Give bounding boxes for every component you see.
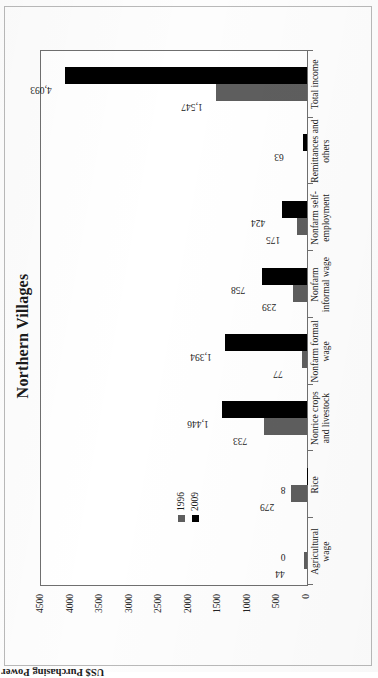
bar-column[interactable]: 279 [291,485,307,502]
x-axis-category-label: Agriculturalwage [310,518,366,585]
plot-area: 44027987331,446771,394239758175424631,54… [41,51,307,585]
bar-value-label: 8 [302,476,307,486]
x-axis-category-label-line: employment [321,186,332,251]
y-axis-tick-label: 2500 [153,594,163,613]
legend-swatch [192,515,199,522]
bar-group: 2798 [41,452,307,519]
x-axis-category-label-line: Remittances and [310,119,321,184]
bar-group: 239758 [41,251,307,318]
legend-label: 2009 [190,492,200,511]
y-axis-tick-label: 4500 [35,594,45,613]
bar-column[interactable]: 424 [282,201,307,218]
bar-group: 771,394 [41,318,307,385]
y-axis-tick-label: 1000 [242,594,252,613]
bar-2009[interactable] [225,334,307,351]
x-axis-category-label-line: and livestock [321,386,332,451]
x-axis-category-label-line: Nonfarm [310,252,321,317]
bar-2009[interactable] [65,67,307,84]
y-axis-tick-label: 4000 [65,594,75,613]
bar-column[interactable]: 1,446 [222,401,307,418]
bar-value-label: 1,446 [209,410,230,420]
x-axis-category-label: Rice [310,452,366,519]
x-axis-category-label: Total income [310,51,366,118]
chart-title: Northern Villages [14,0,32,672]
bar-column[interactable]: 77 [302,351,307,368]
bar-column[interactable]: 239 [293,285,307,302]
x-axis-category-label: Nonfarminformal wage [310,251,366,318]
y-axis-tick-label: 0 [301,594,311,599]
bar-group: 175424 [41,185,307,252]
bar-value-label: 239 [284,293,298,303]
x-axis-category-label: Nonfarm self-employment [310,185,366,252]
bar-column[interactable]: 1,547 [216,84,307,101]
x-axis-category-label-line: Total income [310,52,321,117]
x-axis-category-label-line: others [321,119,332,184]
bar-groups: 44027987331,446771,394239758175424631,54… [41,51,307,585]
bar-column[interactable]: 758 [262,268,307,285]
bar-2009[interactable] [222,401,307,418]
bar-value-label: 44 [298,560,308,570]
bar-column[interactable]: 733 [264,418,307,435]
bar-value-label: 0 [303,543,308,553]
legend-item[interactable]: 1996 [176,492,186,522]
y-axis-tick-label: 3500 [94,594,104,613]
x-axis-category-label: Nonfarm formalwage [310,318,366,385]
y-axis-tick-label: 2000 [183,594,193,613]
bar-value-label: 424 [273,209,287,219]
bar-group: 440 [41,518,307,585]
bar-1996[interactable] [216,84,307,101]
y-axis-tick-label: 3000 [124,594,134,613]
y-axis-tick-label: 500 [271,594,281,608]
bar-value-label: 758 [253,276,267,286]
bar-column[interactable]: 4,093 [65,67,307,84]
x-axis-category-label: Remittances andothers [310,118,366,185]
x-axis-category-label: Nonrice cropsand livestock [310,385,366,452]
x-axis-category-label-line: informal wage [321,252,332,317]
bar-1996[interactable] [264,418,307,435]
y-axis-title: US$ Purchasing Power Parity in 2005 [0,667,150,678]
y-axis-tick-label: 1500 [212,594,222,613]
bar-group: 1,5474,093 [41,51,307,118]
x-axis-category-label-line: Nonfarm formal [310,319,321,384]
bar-value-label: 733 [255,427,269,437]
bar-column[interactable]: 175 [297,218,307,235]
legend-swatch [178,515,185,522]
bar-group: 63 [41,118,307,185]
x-axis-category-label-line: Agricultural [310,519,321,584]
x-axis-category-label-line: wage [321,319,332,384]
x-axis-category-label-line: Rice [310,453,321,518]
bar-2009[interactable] [262,268,307,285]
bar-column[interactable]: 63 [303,134,307,151]
bar-column[interactable]: 1,394 [225,334,307,351]
y-axis-tick-labels: 450040003500300025002000150010005000 [40,590,308,632]
bar-value-label: 77 [296,360,306,370]
bar-value-label: 63 [297,143,307,153]
bar-group: 7331,446 [41,385,307,452]
legend-item[interactable]: 2009 [190,492,200,522]
x-axis-category-label-line: Nonfarm self- [310,186,321,251]
bar-value-label: 175 [288,226,302,236]
legend-label: 1996 [176,492,186,511]
x-axis-category-label-line: wage [321,519,332,584]
bar-column[interactable]: 44 [304,552,307,569]
bar-value-label: 4,093 [52,76,73,86]
x-axis-category-label-line: Nonrice crops [310,386,321,451]
chart-legend: 19962009 [176,492,204,522]
bar-value-label: 1,547 [203,93,224,103]
bar-value-label: 1,394 [212,343,233,353]
x-axis-category-labels: AgriculturalwageRiceNonrice cropsand liv… [310,51,366,585]
